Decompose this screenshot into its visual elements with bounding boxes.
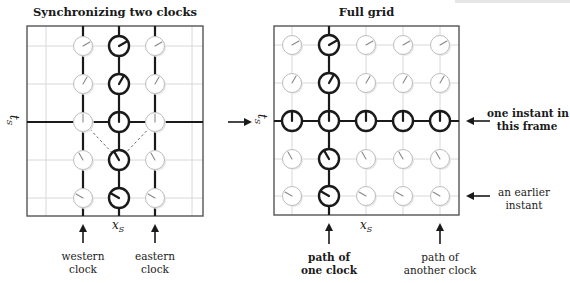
clock-icon: [431, 36, 452, 57]
western-clock-label: western clock: [53, 250, 113, 276]
clock-icon: [357, 187, 378, 208]
clock-icon: [146, 113, 167, 134]
clock-icon: [283, 150, 304, 171]
one-instant-label: one instant in this frame: [487, 107, 567, 133]
clock-icon: [357, 74, 378, 95]
clock-icon-bold: [356, 111, 376, 131]
clock-icon: [431, 150, 452, 171]
clock-icon-bold: [319, 35, 339, 55]
clock-icon: [283, 36, 304, 57]
earlier-instant-label: an earlier instant: [489, 186, 559, 212]
annotation-arrows: [83, 121, 490, 244]
path-another-clock-label: path of another clock: [400, 251, 480, 277]
clock-icon: [283, 187, 304, 208]
clock-icon: [74, 37, 95, 58]
clock-icon: [74, 151, 95, 172]
clock-icon: [431, 74, 452, 95]
right-panel-grid: [274, 26, 459, 215]
clock-icon: [74, 189, 95, 210]
left-t-axis-label: tS: [5, 115, 21, 125]
clock-icon-bold: [109, 188, 129, 208]
clock-icon-bold: [109, 112, 129, 132]
clock-icon: [394, 187, 415, 208]
clock-icon-bold: [282, 111, 302, 131]
clock-icon-bold: [319, 73, 339, 93]
clock-icon-bold: [319, 111, 339, 131]
clock-icon-bold: [430, 111, 450, 131]
spacetime-diagram: [0, 0, 570, 283]
clock-icon: [146, 189, 167, 210]
clock-icon-bold: [319, 149, 339, 169]
clock-icon: [146, 151, 167, 172]
left-x-axis-label: xS: [112, 218, 124, 234]
clock-icon-bold: [109, 150, 129, 170]
clock-icon: [357, 36, 378, 57]
clock-icon-bold: [319, 186, 339, 206]
clock-icon-bold: [393, 111, 413, 131]
clock-icon-bold: [109, 36, 129, 56]
clock-icon-bold: [109, 74, 129, 94]
clock-icon: [283, 74, 304, 95]
left-panel-grid: [27, 26, 203, 216]
clock-icon: [394, 74, 415, 95]
right-t-axis-label: tS: [253, 114, 269, 124]
right-x-axis-label: xS: [360, 218, 372, 234]
path-one-clock-label: path of one clock: [294, 251, 364, 277]
eastern-clock-label: eastern clock: [125, 250, 185, 276]
clock-icon: [394, 36, 415, 57]
clock-icon: [357, 150, 378, 171]
clock-icon: [74, 113, 95, 134]
clock-icon: [394, 150, 415, 171]
clock-icon: [74, 75, 95, 96]
clock-icon: [146, 37, 167, 58]
clock-icon: [146, 75, 167, 96]
clock-icon: [431, 187, 452, 208]
